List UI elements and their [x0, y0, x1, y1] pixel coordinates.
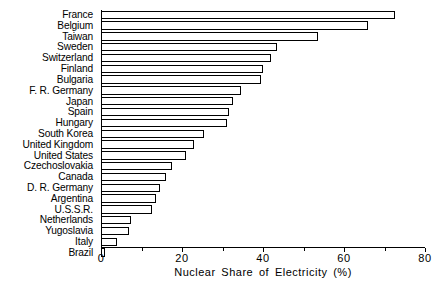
- bar-row: [101, 205, 425, 216]
- bar: [101, 54, 271, 62]
- x-tick-label: 40: [248, 252, 278, 264]
- bar-row: [101, 64, 425, 75]
- bar: [101, 21, 368, 29]
- bar-row: [101, 21, 425, 32]
- bar: [101, 205, 152, 213]
- bar: [101, 32, 318, 40]
- bar: [101, 173, 166, 181]
- bar-series: [101, 10, 425, 248]
- x-axis-title: Nuclear Share of Electricity (%): [101, 266, 425, 278]
- bar-row: [101, 129, 425, 140]
- bar: [101, 86, 241, 94]
- bar: [101, 216, 131, 224]
- bar: [101, 11, 395, 19]
- bar: [101, 119, 227, 127]
- category-label: F. R. Germany: [0, 86, 97, 97]
- bar-row: [101, 161, 425, 172]
- category-axis-labels: FranceBelgiumTaiwanSwedenSwitzerlandFinl…: [0, 10, 97, 248]
- bar: [101, 227, 129, 235]
- x-tick-minor: [142, 248, 143, 251]
- bar-row: [101, 10, 425, 21]
- bar: [101, 108, 229, 116]
- x-tick-label: 60: [329, 252, 359, 264]
- category-label: Belgium: [0, 21, 97, 32]
- bar-row: [101, 86, 425, 97]
- x-tick-label: 20: [167, 252, 197, 264]
- bar-row: [101, 75, 425, 86]
- bar: [101, 130, 204, 138]
- bar-row: [101, 226, 425, 237]
- bar-row: [101, 32, 425, 43]
- x-tick-minor: [385, 248, 386, 251]
- bar-row: [101, 118, 425, 129]
- bar: [101, 184, 160, 192]
- bar: [101, 43, 277, 51]
- bar-row: [101, 172, 425, 183]
- bar: [101, 162, 172, 170]
- x-tick-minor: [223, 248, 224, 251]
- bar: [101, 75, 261, 83]
- bar-row: [101, 97, 425, 108]
- bar: [101, 194, 156, 202]
- bar-row: [101, 151, 425, 162]
- category-label: United Kingdom: [0, 140, 97, 151]
- bar-row: [101, 215, 425, 226]
- bar-chart: FranceBelgiumTaiwanSwedenSwitzerlandFinl…: [0, 0, 446, 287]
- bar-row: [101, 237, 425, 248]
- x-tick-label: 80: [410, 252, 440, 264]
- bar-row: [101, 107, 425, 118]
- bar-row: [101, 53, 425, 64]
- bar: [101, 97, 233, 105]
- bar-row: [101, 183, 425, 194]
- plot-area: [101, 10, 425, 248]
- category-label: Argentina: [0, 194, 97, 205]
- bar: [101, 151, 186, 159]
- x-tick-minor: [304, 248, 305, 251]
- bar: [101, 238, 117, 246]
- bar-row: [101, 194, 425, 205]
- bar: [101, 140, 194, 148]
- bar: [101, 65, 263, 73]
- category-label: Brazil: [0, 248, 97, 259]
- x-tick-label: 0: [86, 252, 116, 264]
- bar-row: [101, 42, 425, 53]
- bar-row: [101, 140, 425, 151]
